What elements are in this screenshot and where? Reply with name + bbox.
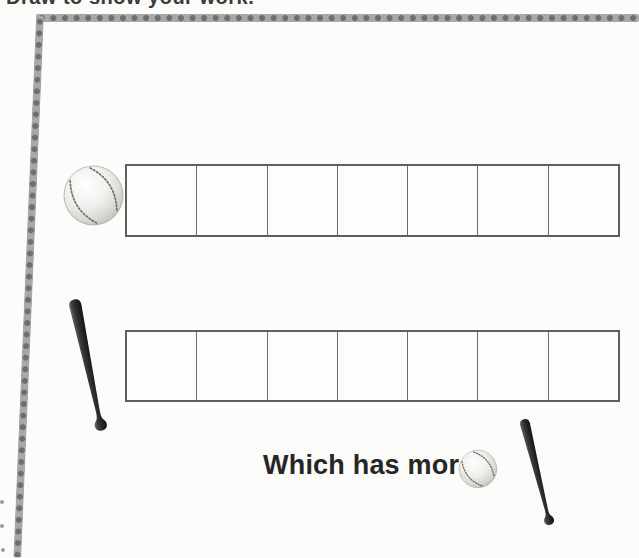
grid-cell[interactable] — [127, 166, 197, 235]
grid-cell[interactable] — [478, 166, 548, 235]
grid-cell[interactable] — [408, 166, 478, 235]
grid-cell[interactable] — [478, 332, 548, 400]
question-text: Which has more? — [263, 450, 491, 481]
grid-cell[interactable] — [408, 332, 478, 400]
page-instruction-text: Draw to show your work. — [6, 0, 306, 9]
grid-cell[interactable] — [197, 166, 267, 235]
baseball-icon — [458, 449, 498, 489]
grid-cell[interactable] — [338, 166, 408, 235]
scan-artifact-dot — [1, 548, 5, 552]
grid-cell[interactable] — [127, 332, 197, 400]
baseball-icon — [62, 164, 125, 227]
grid-cell[interactable] — [197, 332, 267, 400]
drawing-grid-baseballs — [125, 164, 620, 237]
scan-artifact-dot — [0, 524, 4, 528]
drawing-grid-bats — [125, 330, 620, 402]
grid-cell[interactable] — [549, 332, 618, 400]
frame-border-left — [13, 16, 44, 558]
frame-border-top — [36, 14, 639, 22]
page-instruction: Draw to show your work. — [6, 0, 306, 9]
baseball-bat-icon — [513, 415, 561, 529]
grid-cell[interactable] — [338, 332, 408, 400]
grid-cell[interactable] — [549, 166, 618, 235]
scan-artifact-dot — [0, 500, 4, 504]
baseball-bat-icon — [61, 295, 115, 435]
grid-cell[interactable] — [268, 166, 338, 235]
grid-cell[interactable] — [268, 332, 338, 400]
